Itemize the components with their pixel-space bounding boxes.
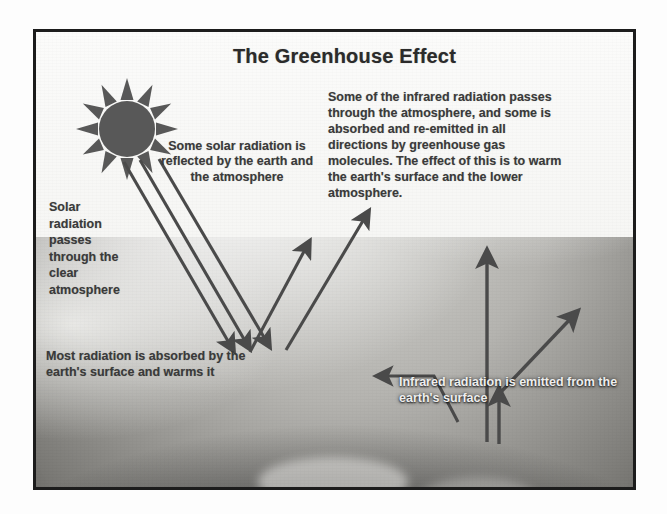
greenhouse-effect-figure: The Greenhouse Effect — [33, 29, 636, 490]
note-infrared-passes: Some of the infrared radiation passes th… — [328, 89, 566, 201]
figure-page: The Greenhouse Effect — [0, 0, 667, 514]
note-infrared-emitted: Infrared radiation is emitted from the e… — [399, 375, 634, 407]
page-title: The Greenhouse Effect — [36, 45, 633, 68]
note-most-absorbed: Most radiation is absorbed by the earth'… — [46, 349, 256, 381]
note-solar-passes: Solar radiation passes through the clear… — [49, 199, 129, 298]
note-solar-reflected: Some solar radiation is reflected by the… — [153, 139, 321, 185]
